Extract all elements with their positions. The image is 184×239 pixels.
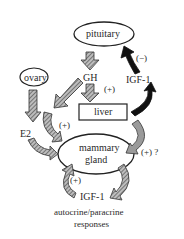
arrow-ovary-e2 <box>25 90 41 122</box>
caption-line-1: autocrine/paracrine <box>54 207 123 218</box>
gh-label: GH <box>83 72 97 83</box>
igf1-top-label: IGF-1 <box>126 74 150 85</box>
endocrine-diagram: pituitary ovary GH liver E2 mammary glan… <box>0 0 184 239</box>
arrow-gh-liver <box>81 84 99 102</box>
autocrine-positive-sign: (+) <box>70 175 81 186</box>
arrow-liver-igf1 <box>131 82 156 116</box>
arrow-pituitary-gh <box>81 52 99 70</box>
e2-label: E2 <box>20 128 31 139</box>
gland-label: gland <box>85 154 107 165</box>
liver-mammary-positive-sign: (+) ? <box>141 147 158 158</box>
gh-liver-positive-sign: (+) <box>104 84 115 95</box>
e2-positive-sign: (+) <box>59 120 70 131</box>
igf1-bottom-label: IGF-1 <box>80 191 104 202</box>
negative-feedback-sign: (−) <box>136 53 147 64</box>
caption-line-2: responses <box>74 219 109 230</box>
mammary-label: mammary <box>79 142 120 153</box>
pituitary-label: pituitary <box>86 28 120 39</box>
ovary-label: ovary <box>24 72 47 83</box>
liver-label: liver <box>94 106 112 117</box>
